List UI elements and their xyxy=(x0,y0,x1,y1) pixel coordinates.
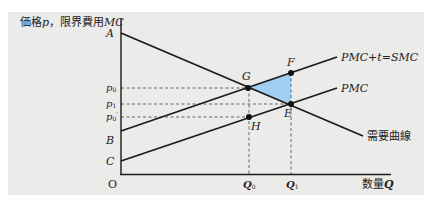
deadweight-loss-triangle xyxy=(248,73,291,104)
label-c: C xyxy=(106,155,115,168)
origin-label: O xyxy=(108,178,117,191)
label-q0: Q0 xyxy=(243,179,256,190)
label-smc: PMC+t=SMC xyxy=(340,51,419,64)
smc-curve xyxy=(121,57,337,131)
label-q1: Q1 xyxy=(286,179,299,190)
pmc-curve xyxy=(121,88,337,161)
label-p0: p0 xyxy=(106,82,116,93)
label-g: G xyxy=(242,70,251,83)
label-p1: p1 xyxy=(106,98,116,109)
point-g xyxy=(245,85,251,91)
label-f: F xyxy=(286,56,295,69)
x-axis-title: 数量Q xyxy=(362,178,394,191)
label-a: A xyxy=(105,27,114,40)
label-h: H xyxy=(250,120,261,133)
tax-externality-diagram: 価格p，限界費用MC A B C O p0 p1 p0′ G F E H PMC… xyxy=(0,0,434,204)
point-f xyxy=(288,70,294,76)
label-e: E xyxy=(283,107,292,120)
label-p0-prime: p0′ xyxy=(106,111,118,122)
label-pmc: PMC xyxy=(340,82,369,95)
label-b: B xyxy=(105,134,114,147)
label-demand: 需要曲線 xyxy=(367,129,411,143)
